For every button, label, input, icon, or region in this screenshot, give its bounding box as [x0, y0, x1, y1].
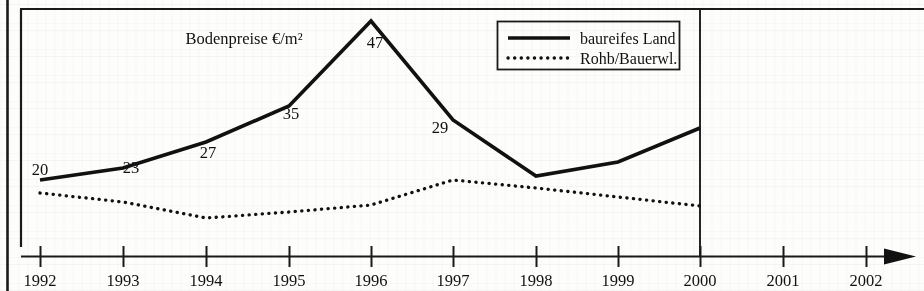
tick-label-2002: 2002	[850, 271, 883, 290]
tick-label-1997: 1997	[437, 271, 470, 290]
page-title: Bodenpreise €/m²	[185, 29, 302, 48]
line-chart: 1992 1993 1994 1995 1996 1997 1998 1999 …	[0, 0, 924, 291]
right-arrow-icon	[884, 249, 916, 265]
tick-label-1999: 1999	[602, 271, 635, 290]
legend-label-rohb-bauerwl: Rohb/Bauerwl.	[580, 50, 677, 67]
value-label-1996: 47	[367, 33, 384, 52]
series-value-labels: 20 23 27 35 47 29	[32, 33, 449, 179]
tick-label-2000: 2000	[684, 271, 717, 290]
value-label-1993: 23	[123, 158, 140, 177]
value-label-1997: 29	[432, 118, 449, 137]
tick-label-1996: 1996	[355, 271, 388, 290]
tick-label-1992: 1992	[24, 271, 57, 290]
tick-label-1995: 1995	[273, 271, 306, 290]
x-axis-tick-labels: 1992 1993 1994 1995 1996 1997 1998 1999 …	[24, 271, 883, 290]
legend-label-baureifes-land: baureifes Land	[580, 30, 676, 47]
tick-label-1998: 1998	[520, 271, 553, 290]
series-line-rohb-bauerwl	[40, 180, 700, 218]
value-label-1992: 20	[32, 160, 49, 179]
tick-label-1993: 1993	[107, 271, 140, 290]
tick-label-1994: 1994	[190, 271, 223, 290]
tick-label-2001: 2001	[767, 271, 800, 290]
value-label-1995: 35	[283, 104, 300, 123]
figure-container: 1992 1993 1994 1995 1996 1997 1998 1999 …	[0, 0, 924, 291]
legend: baureifes Land Rohb/Bauerwl.	[498, 22, 680, 70]
value-label-1994: 27	[200, 143, 217, 162]
